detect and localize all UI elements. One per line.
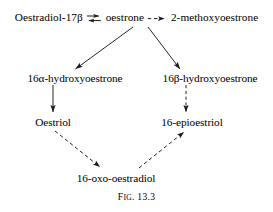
edge-oestrone-to-16b-hydroxyoestrone	[148, 27, 180, 69]
node-oestriol: Oestriol	[35, 117, 71, 128]
figure-caption: FIG. 13.3	[118, 192, 155, 202]
node-2-methoxyoestrone: 2-methoxyoestrone	[171, 12, 258, 23]
edge-oestriol-to-16-oxo-oestradiol	[55, 131, 100, 167]
node-oestrone: oestrone	[106, 12, 144, 23]
edge-16-oxo-oestradiol-to-16-epioestriol	[139, 132, 184, 168]
node-16-epioestriol: 16-epioestriol	[161, 117, 222, 128]
dashed-arrow-icon	[147, 13, 168, 23]
equilibrium-arrow-icon	[86, 12, 103, 24]
top-row: Oestradiol-17β oestrone	[15, 12, 258, 24]
caption-number: . 13.3	[132, 192, 155, 202]
figure-container: Oestradiol-17β oestrone	[0, 0, 273, 212]
edge-oestrone-to-16a-hydroxyoestrone	[76, 27, 134, 69]
caption-smallcaps: IG	[123, 193, 132, 202]
node-oestradiol: Oestradiol-17β	[15, 12, 83, 23]
node-16alpha-hydroxyoestrone: 16α-hydroxyoestrone	[27, 73, 122, 84]
node-16-oxo-oestradiol: 16-oxo-oestradiol	[77, 173, 156, 184]
node-16beta-hydroxyoestrone: 16β-hydroxyoestrone	[163, 73, 258, 84]
